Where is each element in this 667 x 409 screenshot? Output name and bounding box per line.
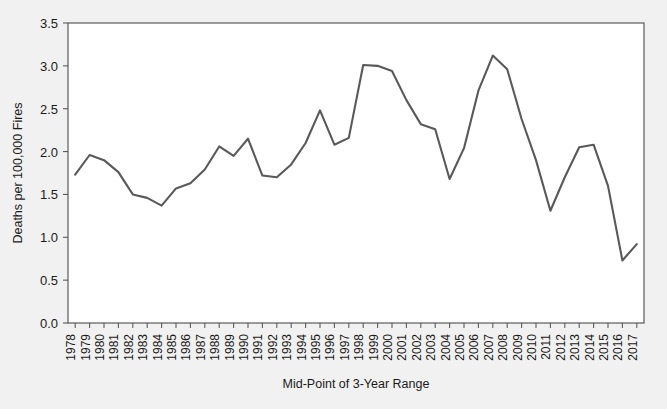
x-tick-label: 1993 <box>280 334 294 361</box>
x-tick-label: 2007 <box>482 334 496 361</box>
x-tick-label: 2002 <box>410 334 424 361</box>
chart-figure: 0.00.51.01.52.02.53.03.5 197819791980198… <box>0 0 667 409</box>
x-tick-label: 2009 <box>511 334 525 361</box>
x-tick-label: 1985 <box>165 334 179 361</box>
y-tick-label: 1.0 <box>40 230 58 245</box>
x-tick-label: 2003 <box>424 334 438 361</box>
x-tick-label: 1980 <box>93 334 107 361</box>
x-tick-label: 1990 <box>237 334 251 361</box>
y-tick-label: 1.5 <box>40 187 58 202</box>
plot-area-background <box>68 23 644 323</box>
y-axis-title: Deaths per 100,000 Fires <box>11 102 25 243</box>
x-tick-label: 2014 <box>583 334 597 361</box>
x-tick-label: 1997 <box>338 334 352 361</box>
x-tick-label: 2005 <box>453 334 467 361</box>
x-tick-label: 1989 <box>223 334 237 361</box>
x-tick-label: 2000 <box>381 334 395 361</box>
y-tick-label: 0.0 <box>40 316 58 331</box>
x-tick-label: 2006 <box>467 334 481 361</box>
x-tick-label: 1994 <box>295 334 309 361</box>
x-tick-label: 1981 <box>107 334 121 361</box>
x-tick-label: 1999 <box>367 334 381 361</box>
x-tick-label: 1983 <box>136 334 150 361</box>
x-tick-label: 2012 <box>554 334 568 361</box>
x-tick-label: 2008 <box>496 334 510 361</box>
x-tick-label: 1979 <box>79 334 93 361</box>
x-tick-label: 1996 <box>323 334 337 361</box>
x-tick-label: 2010 <box>525 334 539 361</box>
x-tick-label: 1995 <box>309 334 323 361</box>
x-tick-label: 1992 <box>266 334 280 361</box>
x-tick-label: 2015 <box>597 334 611 361</box>
x-tick-label: 2013 <box>568 334 582 361</box>
y-tick-label: 2.0 <box>40 145 58 160</box>
x-tick-label: 2016 <box>611 334 625 361</box>
x-tick-label: 2004 <box>439 334 453 361</box>
x-tick-label: 1986 <box>179 334 193 361</box>
x-tick-label: 2017 <box>626 334 640 361</box>
x-tick-label: 2011 <box>539 334 553 360</box>
x-tick-label: 1982 <box>122 334 136 361</box>
x-tick-label: 1984 <box>151 334 165 361</box>
x-tick-label: 1998 <box>352 334 366 361</box>
line-chart: 0.00.51.01.52.02.53.03.5 197819791980198… <box>0 0 667 409</box>
x-axis-title: Mid-Point of 3-Year Range <box>283 377 430 391</box>
y-tick-label: 3.5 <box>40 16 58 31</box>
x-tick-label: 1987 <box>194 334 208 361</box>
y-tick-label: 2.5 <box>40 102 58 117</box>
y-tick-label: 0.5 <box>40 273 58 288</box>
y-tick-label: 3.0 <box>40 59 58 74</box>
x-tick-label: 1991 <box>251 334 265 361</box>
x-tick-label: 2001 <box>395 334 409 361</box>
x-tick-label: 1988 <box>208 334 222 361</box>
x-tick-label: 1978 <box>64 334 78 361</box>
